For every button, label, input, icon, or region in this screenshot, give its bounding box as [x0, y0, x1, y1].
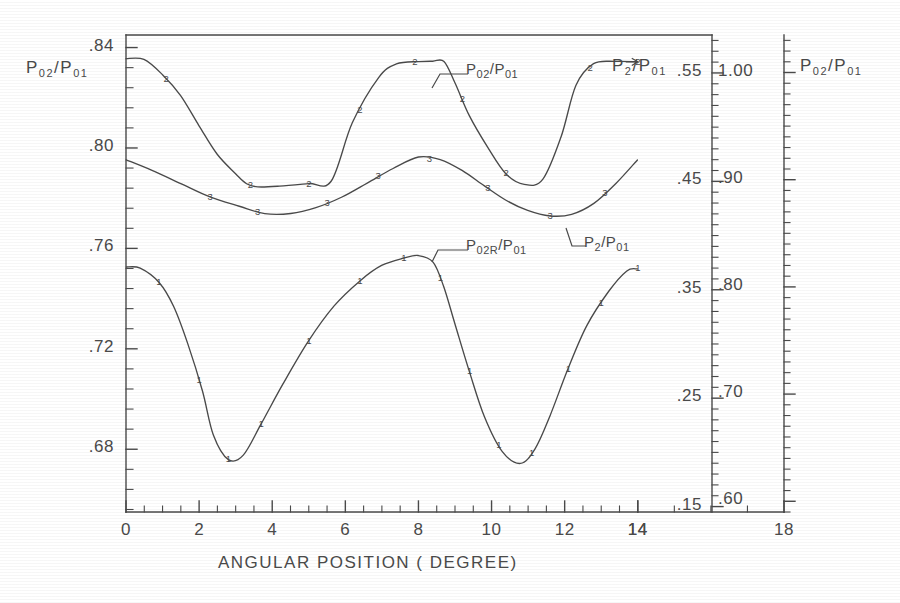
data-marker-2: 2	[504, 167, 509, 178]
axis-2-tick-label: .35	[646, 278, 702, 298]
curve-p2-p01	[126, 156, 637, 216]
left-axis-tick-label: .68	[66, 437, 114, 457]
data-marker-2: 2	[460, 93, 465, 104]
data-marker-2: 2	[412, 56, 417, 67]
curve-p02-p01	[126, 58, 637, 187]
chart-canvas: 2222222223333333311111111111111 .84.80.7…	[0, 0, 900, 603]
axis-3-tick-label: .80	[718, 275, 778, 295]
x-axis-tick-label: 2	[179, 520, 219, 540]
axis-2-tick-label: .25	[646, 386, 702, 406]
axis-3-tick-label: .90	[718, 168, 778, 188]
data-marker-3: 3	[376, 170, 381, 181]
x-axis-tick-label: 10	[472, 520, 512, 540]
axis-3-tick-label: .60	[718, 489, 778, 509]
data-marker-2: 2	[588, 62, 593, 73]
data-marker-3: 3	[324, 197, 329, 208]
left-axis-tick-label: .76	[66, 236, 114, 256]
leader-p02r-p01	[432, 250, 468, 262]
data-marker-1: 1	[599, 297, 604, 308]
curve-annotation-p02r-p01: P02R/P01	[466, 236, 527, 256]
x-axis-tick-label-18: 18	[764, 520, 804, 540]
data-marker-3: 3	[547, 210, 552, 221]
data-marker-2: 2	[306, 178, 311, 189]
data-marker-1: 1	[635, 262, 640, 273]
axis-3-tick-label: 1.00	[718, 61, 778, 81]
axis-2-tick-label: .45	[646, 169, 702, 189]
curve-annotation-p2-p01: P2/P01	[584, 233, 630, 253]
chart-svg: 2222222223333333311111111111111	[0, 0, 900, 603]
axis-3-tick-label: .70	[718, 382, 778, 402]
left-axis-tick-label: .72	[66, 337, 114, 357]
x-axis-tick-label: 12	[545, 520, 585, 540]
left-axis-tick-label: .84	[66, 36, 114, 56]
axis-2-title: P2/P01	[612, 56, 667, 77]
data-marker-3: 3	[485, 182, 490, 193]
data-marker-1: 1	[467, 365, 472, 376]
data-marker-3: 3	[207, 191, 212, 202]
data-marker-2: 2	[164, 73, 169, 84]
x-axis-tick-label: 4	[252, 520, 292, 540]
data-marker-2: 2	[248, 179, 253, 190]
leader-p2-p01	[566, 228, 586, 246]
curve-annotation-p02-p01: P02/P01	[466, 60, 518, 80]
axis-3-title: P02/P01	[800, 56, 862, 77]
x-axis-tick-label: 8	[398, 520, 438, 540]
axis-2-tick-label: .15	[646, 495, 702, 515]
left-axis-title: P02/P01	[26, 58, 88, 79]
data-marker-3: 3	[255, 206, 260, 217]
data-marker-1: 1	[529, 447, 534, 458]
data-marker-1: 1	[438, 272, 443, 283]
x-axis-tick-label: 0	[106, 520, 146, 540]
x-axis-tick-label-14b: 14	[618, 520, 658, 540]
leader-p02-p01	[432, 74, 468, 88]
data-marker-1: 1	[496, 439, 501, 450]
data-marker-1: 1	[566, 363, 571, 374]
data-marker-1: 1	[156, 276, 161, 287]
x-axis-tick-label: 6	[325, 520, 365, 540]
data-marker-1: 1	[226, 453, 231, 464]
data-marker-3: 3	[427, 153, 432, 164]
data-marker-1: 1	[259, 418, 264, 429]
curve-p02r-p01	[126, 255, 637, 463]
data-marker-2: 2	[357, 104, 362, 115]
data-marker-1: 1	[401, 252, 406, 263]
data-marker-1: 1	[357, 275, 362, 286]
data-marker-3: 3	[602, 187, 607, 198]
data-marker-1: 1	[196, 374, 201, 385]
data-marker-1: 1	[306, 335, 311, 346]
x-axis-title: ANGULAR POSITION ( DEGREE)	[218, 553, 518, 573]
left-axis-tick-label: .80	[66, 136, 114, 156]
